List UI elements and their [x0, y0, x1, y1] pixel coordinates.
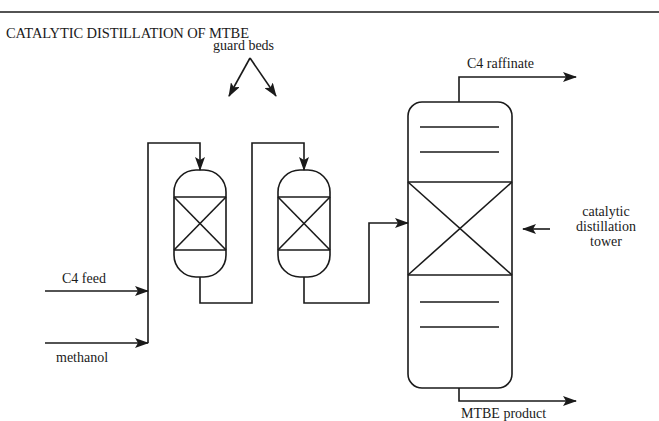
guard-bed-2 [278, 170, 330, 277]
tower-label-line-1: catalytic [556, 204, 656, 219]
tower-label-line-3: tower [556, 234, 656, 249]
catalytic-distillation-tower [408, 102, 512, 388]
c4-raffinate-label: C4 raffinate [467, 56, 534, 71]
guard-beds-label: guard beds [213, 38, 274, 53]
guard-bed-1 [174, 170, 226, 277]
mtbe-product-stream [459, 388, 576, 401]
tower-label: catalytic distillation tower [556, 204, 656, 249]
methanol-label: methanol [56, 350, 108, 365]
guard-beds-pointer-icon [229, 58, 276, 96]
c4-feed-label: C4 feed [62, 271, 106, 286]
c4-raffinate-stream [459, 77, 576, 102]
guard-bed-2-to-tower-stream [304, 223, 408, 303]
tower-label-line-2: distillation [556, 219, 656, 234]
guard-bed-1-to-2-stream [200, 143, 304, 303]
mtbe-product-label: MTBE product [461, 406, 546, 421]
